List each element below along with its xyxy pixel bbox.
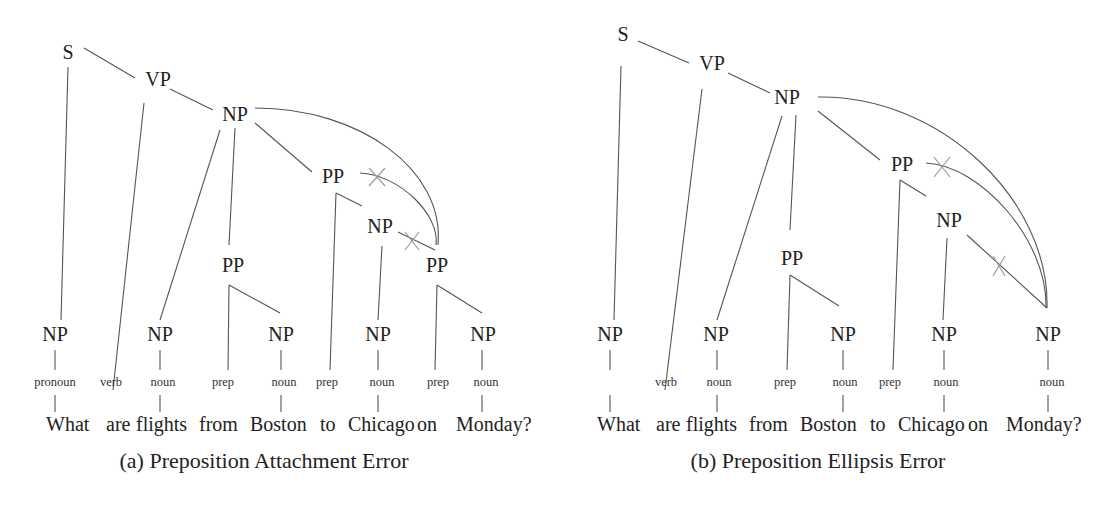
node-np-mid: NP: [936, 209, 962, 231]
node-np-chicago: NP: [931, 323, 957, 345]
reattachment-arc-outer: [255, 108, 438, 245]
word: Chicago: [348, 413, 415, 436]
word: are: [656, 413, 681, 435]
pos-tag: noun: [934, 375, 960, 389]
pos-tag: noun: [474, 375, 500, 389]
word: What: [46, 413, 90, 435]
node-vp: VP: [699, 52, 725, 74]
node-np-what: NP: [42, 323, 68, 345]
node-pp-right: PP: [891, 153, 913, 175]
tree-edges: [55, 48, 482, 412]
error-cross-icon: [993, 256, 1005, 276]
word: to: [870, 413, 886, 435]
word: What: [597, 413, 641, 435]
word: are: [106, 413, 131, 435]
node-np-flights: NP: [703, 323, 729, 345]
pos-tag: prep: [879, 375, 901, 389]
word: to: [320, 413, 336, 435]
figure-a-preposition-attachment-error: S VP NP PP NP PP PP NP NP NP NP NP prono…: [34, 41, 531, 473]
pos-tag: verb: [655, 375, 677, 389]
figure-b-preposition-ellipsis-error: S VP NP PP NP PP NP NP NP NP NP verb nou…: [597, 23, 1082, 473]
node-vp: VP: [145, 68, 171, 90]
pos-tag: noun: [151, 375, 177, 389]
pos-tag: noun: [1040, 375, 1066, 389]
node-np-chicago: NP: [365, 323, 391, 345]
pos-tag: pronoun: [34, 375, 76, 389]
node-np-flights: NP: [147, 323, 173, 345]
word: Chicago: [898, 413, 965, 436]
pos-tag: noun: [833, 375, 859, 389]
pos-tag: prep: [774, 375, 796, 389]
word: flights: [686, 413, 737, 436]
word: on: [968, 413, 988, 435]
word: from: [199, 413, 238, 435]
pos-tag: prep: [316, 375, 338, 389]
node-s: S: [617, 23, 628, 45]
word: Boston: [800, 413, 857, 435]
node-np-mid: NP: [367, 215, 393, 237]
pos-tag: noun: [272, 375, 298, 389]
node-np-monday: NP: [1035, 323, 1061, 345]
caption-a: (a) Preposition Attachment Error: [120, 448, 410, 473]
ellipsis-arc-inner: [926, 163, 1046, 308]
pos-tag: prep: [427, 375, 449, 389]
node-np-top: NP: [222, 103, 248, 125]
word: from: [749, 413, 788, 435]
node-np-boston: NP: [268, 323, 294, 345]
pos-tag: noun: [370, 375, 396, 389]
pos-tag: noun: [707, 375, 733, 389]
caption-b: (b) Preposition Ellipsis Error: [691, 448, 946, 473]
word: flights: [136, 413, 187, 436]
word: Boston: [250, 413, 307, 435]
pos-tag: verb: [100, 375, 122, 389]
word: Monday?: [1006, 413, 1082, 436]
node-np-what: NP: [597, 323, 623, 345]
error-cross-icon: [369, 168, 385, 186]
node-s: S: [62, 41, 73, 63]
node-pp-low: PP: [426, 254, 448, 276]
node-np-top: NP: [774, 86, 800, 108]
node-pp-mid: PP: [222, 254, 244, 276]
word: on: [417, 413, 437, 435]
parse-tree-figure: S VP NP PP NP PP PP NP NP NP NP NP prono…: [0, 0, 1116, 512]
node-np-monday: NP: [470, 323, 496, 345]
node-np-boston: NP: [830, 323, 856, 345]
word: Monday?: [456, 413, 532, 436]
pos-tag: prep: [212, 375, 234, 389]
node-pp-low: PP: [781, 247, 803, 269]
node-pp-right: PP: [322, 165, 344, 187]
